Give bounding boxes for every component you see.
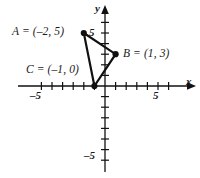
point-c-dot <box>91 83 97 89</box>
triangle-abc <box>84 33 116 86</box>
x-axis-tick-label-5: 5 <box>153 90 159 101</box>
point-b-label: B = (1, 3) <box>123 48 169 60</box>
figure-coordinate-plane: A = (–2, 5) B = (1, 3) C = (–1, 0) x y 5… <box>0 0 200 178</box>
y-axis-arrowhead <box>101 5 109 14</box>
x-axis-label: x <box>186 76 192 87</box>
y-axis-label: y <box>95 3 100 14</box>
y-axis-tick-label-5: 5 <box>89 27 95 38</box>
point-a-label: A = (–2, 5) <box>12 26 64 38</box>
point-b-dot <box>113 51 119 57</box>
y-axis-tick-label-minus5: –5 <box>84 150 95 161</box>
point-a-dot <box>81 30 87 36</box>
x-axis-tick-label-minus5: –5 <box>30 90 41 101</box>
point-c-label: C = (–1, 0) <box>26 64 79 76</box>
